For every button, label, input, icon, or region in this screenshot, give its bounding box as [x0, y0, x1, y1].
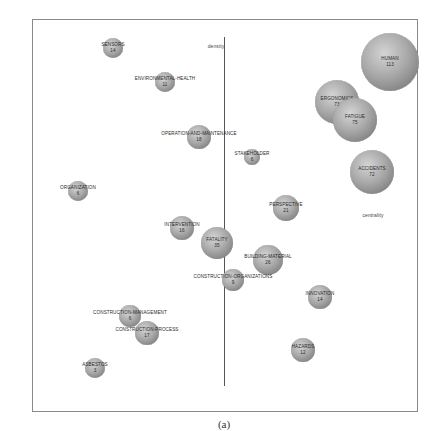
bubble-value: 6	[60, 191, 96, 197]
bubble-label-perspective: PERSPECTIVE21	[269, 202, 302, 214]
bubble-label-construction-management: CONSTRUCTION-MANAGEMENT6	[93, 310, 167, 322]
bubble-label-sensors: SENSORS14	[101, 42, 124, 54]
bubble-label-construction-organizations: CONSTRUCTION-ORGANIZATIONS9	[194, 274, 273, 286]
bubble-value: 35	[206, 243, 227, 249]
bubble-label-stakeholder: STAKEHOLDER6	[235, 151, 270, 163]
bubble-value: 26	[244, 260, 292, 266]
bubble-label-organization: ORGANIZATION6	[60, 185, 96, 197]
bubble-label-innovation: INNOVATION14	[306, 291, 335, 303]
bubble-value: 12	[292, 350, 315, 356]
bubble-value: 21	[269, 208, 302, 214]
y-axis-label: density	[208, 43, 225, 49]
bubble-label-fatigue: FATIGUE75	[345, 114, 365, 126]
bubble-label-fatality: FATALITY35	[206, 237, 227, 249]
bubble-value: 75	[345, 120, 365, 126]
bubble-label-construction-process: CONSTRUCTION-PROCESS17	[116, 327, 179, 339]
bubble-label-intervention: INTERVENTION16	[164, 222, 199, 234]
bubble-value: 6	[235, 157, 270, 163]
bubble-value: 113	[381, 62, 398, 68]
bubble-label-hazards: HAZARDS12	[292, 344, 315, 356]
bubble-value: 18	[161, 137, 236, 143]
bubble-label-environmental-health: ENVIRONMENTAL-HEALTH11	[135, 76, 196, 88]
bubble-label-accidents: ACCIDENTS72	[358, 166, 385, 178]
bubble-value: 11	[135, 82, 196, 88]
bubble-label-asbestos: ASBESTOS3	[82, 362, 107, 374]
bubble-value: 14	[306, 297, 335, 303]
bubble-label-operation-and-maintenance: OPERATION-AND-MAINTENANCE18	[161, 131, 236, 143]
figure-caption: (a)	[218, 418, 230, 430]
bubble-label-building-material: BUILDING-MATERIAL26	[244, 254, 292, 266]
bubble-label-human: HUMAN113	[381, 56, 398, 68]
bubble-value: 6	[93, 316, 167, 322]
bubble-value: 17	[116, 333, 179, 339]
bubble-value: 72	[358, 172, 385, 178]
bubble-value: 16	[164, 228, 199, 234]
density-axis-line	[224, 37, 225, 386]
bubble-value: 3	[82, 368, 107, 374]
bubble-value: 9	[194, 280, 273, 286]
x-axis-label: centrality	[362, 212, 383, 218]
bubble-value: 14	[101, 48, 124, 54]
